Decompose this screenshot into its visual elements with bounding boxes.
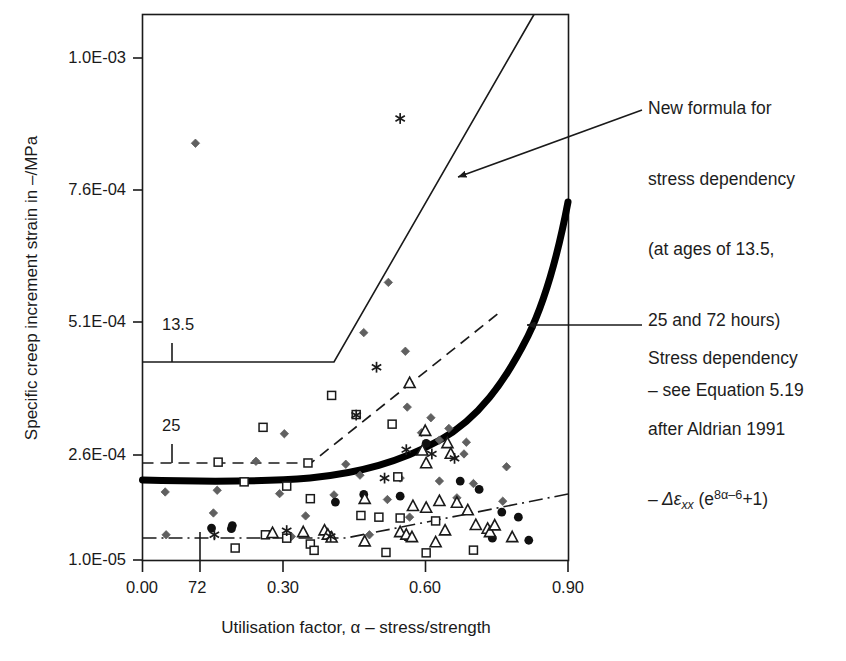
data-point-triangle-open — [434, 495, 445, 505]
data-point-diamond — [213, 486, 221, 494]
data-point-square-open — [240, 478, 248, 486]
formula-close: +1) — [742, 489, 768, 509]
data-point-diamond — [427, 414, 435, 422]
x-axis-title: Utilisation factor, α – stress/strength — [0, 618, 712, 638]
data-point-square-open — [283, 482, 291, 490]
x-tick-label-2: 0.30 — [243, 578, 323, 597]
data-point-diamond — [209, 509, 217, 517]
x-tick-label-1: 0.00 — [102, 578, 182, 597]
data-point-diamond — [462, 438, 470, 446]
data-point-triangle-open — [470, 519, 481, 529]
data-point-square-open — [432, 517, 440, 525]
series-aldrian-1991 — [143, 202, 569, 481]
data-point-triangle-open — [404, 377, 415, 387]
data-point-diamond — [401, 347, 409, 355]
data-point-diamond — [301, 512, 309, 520]
curve-label-13p5: 13.5 — [162, 315, 194, 334]
data-point-circle-filled — [456, 477, 465, 486]
data-point-diamond — [342, 460, 350, 468]
annotation-aldrian-formula: – Δεxx (e8α–6+1) — [648, 488, 798, 514]
annotation-new-formula-line-1: New formula for — [648, 97, 804, 121]
x-tick-label-4: 0.90 — [528, 578, 608, 597]
data-point-diamond — [499, 497, 507, 505]
data-point-diamond — [252, 457, 260, 465]
data-point-diamond — [460, 450, 468, 458]
data-point-circle-filled — [524, 536, 533, 545]
curve-label-25: 25 — [162, 416, 180, 435]
data-point-square-open — [304, 459, 312, 467]
figure-container: 1.0E-03 7.6E-04 5.1E-04 2.6E-04 1.0E-05 … — [0, 0, 846, 661]
formula-prefix: – Δε — [648, 489, 681, 509]
data-point-square-open — [388, 420, 396, 428]
data-point-square-open — [231, 544, 239, 552]
data-point-asterisk — [395, 113, 404, 124]
data-point-diamond — [330, 491, 338, 499]
y-axis-title: Specific creep increment strain in –/MPa — [22, 0, 42, 588]
data-point-diamond — [161, 488, 169, 496]
data-point-square-open — [375, 513, 383, 521]
data-point-triangle-open — [507, 531, 518, 541]
data-point-diamond — [435, 477, 443, 485]
data-point-square-open — [396, 514, 404, 522]
data-point-diamond — [405, 513, 413, 521]
data-point-asterisk — [427, 449, 436, 460]
curve-label-72: 72 — [188, 578, 206, 597]
data-point-square-open — [422, 549, 430, 557]
data-point-triangle-open — [489, 520, 500, 530]
data-point-diamond — [502, 463, 510, 471]
formula-open: (e — [694, 489, 714, 509]
data-point-asterisk — [372, 362, 381, 373]
data-point-diamond — [191, 139, 199, 147]
data-point-circle-filled — [497, 508, 506, 517]
data-point-diamond — [360, 328, 368, 336]
data-point-square-open — [310, 546, 318, 554]
data-point-square-open — [214, 458, 222, 466]
data-point-triangle-open — [421, 457, 432, 467]
data-point-circle-filled — [514, 513, 523, 522]
data-point-triangle-open — [407, 500, 418, 510]
data-point-diamond — [383, 495, 391, 503]
data-point-markers — [161, 113, 533, 557]
data-point-diamond — [403, 403, 411, 411]
series-new-formula-13p5h — [143, 15, 535, 363]
annotation-new-formula-line-3: (at ages of 13.5, — [648, 238, 804, 262]
data-point-square-open — [469, 546, 477, 554]
annotation-aldrian-line-2: after Aldrian 1991 — [648, 418, 798, 442]
data-point-triangle-open — [430, 536, 441, 546]
data-point-square-open — [382, 548, 390, 556]
data-point-circle-filled — [396, 492, 405, 501]
data-point-circle-filled — [475, 485, 484, 494]
x-tick-label-3: 0.60 — [385, 578, 465, 597]
data-point-square-open — [306, 495, 314, 503]
formula-subscript: xx — [681, 498, 693, 512]
annotation-aldrian: Stress dependency after Aldrian 1991 – Δ… — [648, 300, 798, 561]
data-point-square-open — [357, 511, 365, 519]
data-point-asterisk — [380, 473, 389, 484]
annotation-arrow-new-formula — [458, 110, 642, 177]
data-point-triangle-open — [421, 502, 432, 512]
data-point-square-open — [394, 473, 402, 481]
data-point-triangle-open — [298, 526, 309, 536]
data-point-circle-filled — [227, 524, 236, 533]
data-point-triangle-open — [462, 504, 473, 514]
formula-superscript: 8α–6 — [714, 488, 742, 502]
annotation-aldrian-line-1: Stress dependency — [648, 347, 798, 371]
data-point-diamond — [384, 278, 392, 286]
y-axis-ticks — [133, 58, 143, 560]
data-point-circle-filled — [331, 498, 340, 507]
annotation-new-formula-line-2: stress dependency — [648, 168, 804, 192]
data-point-triangle-open — [440, 525, 451, 535]
data-point-diamond — [280, 430, 288, 438]
data-point-square-open — [259, 423, 267, 431]
data-point-square-open — [328, 391, 336, 399]
